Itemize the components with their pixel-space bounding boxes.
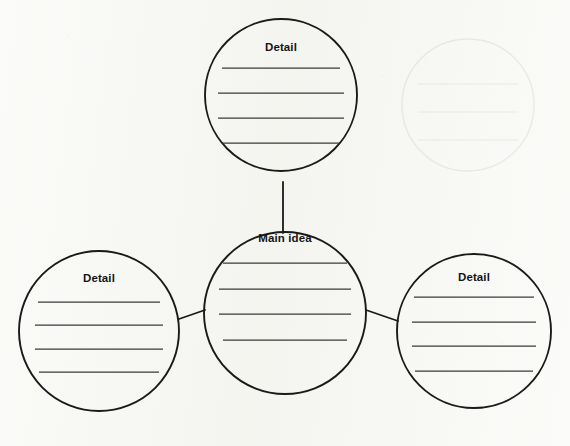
nodes-group	[19, 19, 551, 411]
node-detail-top[interactable]	[205, 19, 357, 171]
main-idea-circle	[204, 232, 366, 394]
organizer-diagram	[0, 0, 570, 446]
node-detail-right[interactable]	[397, 254, 551, 408]
node-main-idea[interactable]	[204, 232, 366, 394]
detail-left-circle	[19, 251, 179, 411]
connector-right	[366, 310, 398, 321]
detail-right-circle	[397, 254, 551, 408]
worksheet-page: DetailMain ideaDetailDetail	[0, 0, 570, 446]
ghost-circle	[402, 39, 534, 171]
detail-top-circle	[205, 19, 357, 171]
connector-left	[179, 310, 205, 319]
ghost-bleedthrough-artifact	[402, 39, 534, 171]
node-detail-left[interactable]	[19, 251, 179, 411]
